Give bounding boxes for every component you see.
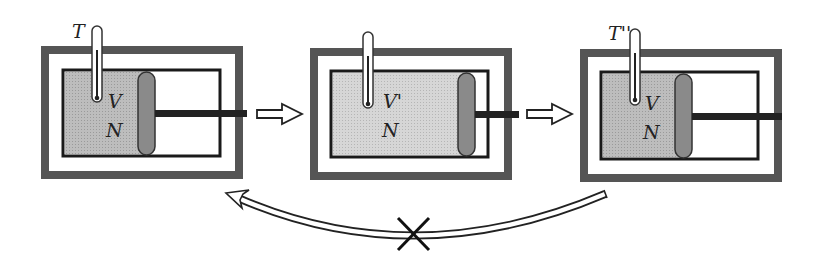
particles-label: N <box>381 119 400 141</box>
piston-rod <box>155 110 247 117</box>
reverse-arrow <box>226 190 607 250</box>
gas-region <box>603 74 683 157</box>
particles-label: N <box>642 121 661 143</box>
state-expanded: V' N <box>314 32 519 176</box>
temperature-label: T'' <box>608 22 631 44</box>
piston-rod <box>692 113 782 120</box>
state-final: T'' V N <box>584 22 782 178</box>
volume-label: V <box>108 90 124 112</box>
forward-arrow-2 <box>527 104 572 124</box>
piston <box>675 74 692 158</box>
piston-rod <box>475 111 519 118</box>
state-initial: T V N <box>45 20 247 175</box>
piston <box>138 72 155 155</box>
volume-label: V <box>645 92 661 114</box>
temperature-label: T <box>72 20 86 42</box>
thermodynamics-diagram: T V N V' N T'' V N <box>0 0 822 276</box>
gas-region <box>333 73 463 155</box>
forward-arrow-1 <box>257 104 302 124</box>
volume-label: V' <box>383 90 402 112</box>
gas-region <box>65 72 145 154</box>
particles-label: N <box>105 119 124 141</box>
piston <box>458 73 475 156</box>
